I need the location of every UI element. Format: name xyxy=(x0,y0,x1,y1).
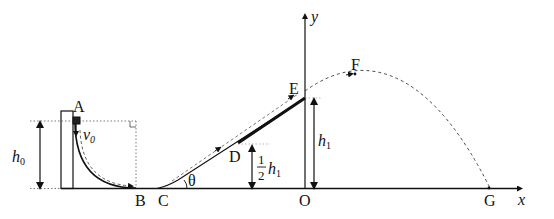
label-D: D xyxy=(229,148,241,165)
launch-wall xyxy=(61,111,73,189)
theta-arc xyxy=(184,180,187,189)
rough-section-DE xyxy=(238,98,305,143)
label-v0: v0 xyxy=(83,126,95,145)
projectile-path-EFG xyxy=(305,70,490,188)
label-h1: h1 xyxy=(318,132,331,151)
label-O: O xyxy=(299,192,311,209)
direction-arrow-1 xyxy=(215,148,219,151)
label-F: F xyxy=(351,56,360,73)
half-numerator: 1 xyxy=(258,152,265,167)
physics-diagram: A B C D E F G O x y v0 h0 h1 θ 1 2 h1 xyxy=(0,0,554,219)
half-denominator: 2 xyxy=(258,168,265,183)
landing-G xyxy=(488,187,491,190)
block-A xyxy=(73,117,80,124)
label-E: E xyxy=(289,80,299,97)
label-x-axis: x xyxy=(517,191,525,208)
direction-arrow-3 xyxy=(346,74,351,75)
right-angle-marker xyxy=(130,121,136,127)
label-A: A xyxy=(73,98,85,115)
label-h0: h0 xyxy=(12,148,25,167)
label-B: B xyxy=(135,192,146,209)
label-G: G xyxy=(484,192,496,209)
label-y-axis: y xyxy=(309,8,319,26)
label-half-h1: h1 xyxy=(268,160,281,179)
label-theta: θ xyxy=(188,172,196,189)
apex-F xyxy=(354,73,357,76)
label-C: C xyxy=(158,192,169,209)
